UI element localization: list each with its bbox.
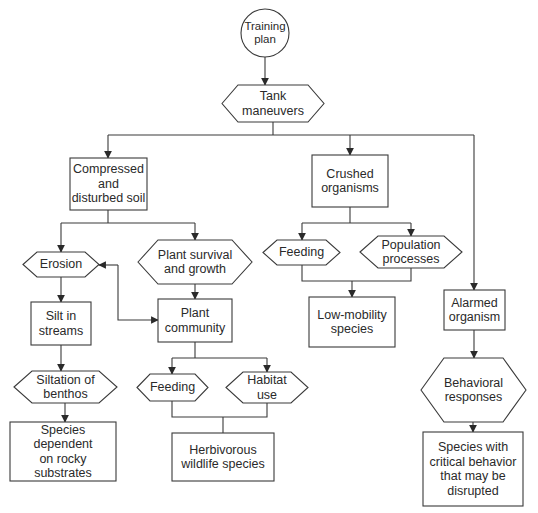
node-silt-streams: Silt in streams: [31, 302, 91, 345]
node-feeding-plant: Feeding: [137, 374, 208, 401]
node-plant-survival: Plant survival and growth: [138, 240, 252, 284]
node-behavioral-responses: Behavioral responses: [421, 358, 526, 422]
node-crushed-organisms: Crushed organisms: [312, 155, 388, 207]
node-alarmed-organism: Alarmed organism: [444, 290, 505, 330]
node-feeding-crushed: Feeding: [263, 240, 340, 265]
node-species-rocky: Species dependent on rocky substrates: [10, 422, 116, 481]
node-training-plan: Training plan: [241, 9, 289, 57]
node-tank-maneuvers: Tank maneuvers: [222, 85, 324, 122]
node-low-mobility: Low-mobility species: [309, 297, 395, 347]
node-compressed-soil: Compressed and disturbed soil: [70, 158, 147, 210]
node-species-critical: Species with critical behavior that may …: [423, 432, 523, 506]
node-plant-community: Plant community: [158, 299, 232, 342]
node-erosion: Erosion: [23, 252, 99, 277]
node-herbivorous: Herbivorous wildlife species: [172, 433, 274, 481]
node-siltation-benthos: Siltation of benthos: [14, 371, 117, 403]
node-population-processes: Population processes: [360, 236, 462, 268]
node-habitat-use: Habitat use: [226, 372, 308, 403]
